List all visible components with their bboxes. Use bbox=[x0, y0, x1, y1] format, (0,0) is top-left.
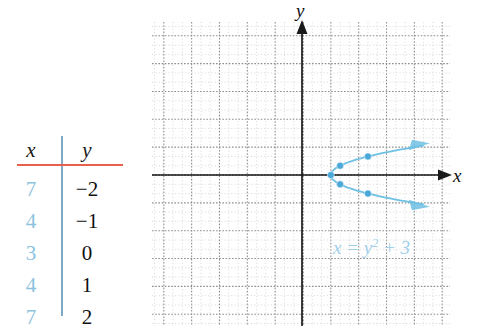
table-header-x: x bbox=[8, 138, 54, 163]
table-vertical-divider bbox=[61, 136, 63, 316]
equation-annotation: x = y2 + 3 bbox=[333, 236, 410, 259]
parabola-curve bbox=[150, 0, 483, 331]
table-row: 7 bbox=[8, 177, 54, 202]
table-header-y: y bbox=[64, 138, 110, 163]
table-row: −1 bbox=[64, 209, 110, 234]
figure-root: x y 7 −2 4 −1 3 0 4 1 7 2 y x x = y2 + 3 bbox=[0, 0, 483, 331]
table-row: 4 bbox=[8, 209, 54, 234]
table-header-rule bbox=[17, 164, 123, 166]
table-row: −2 bbox=[64, 177, 110, 202]
equation-lhs: x = y bbox=[333, 237, 372, 258]
equation-exponent: 2 bbox=[372, 236, 378, 250]
x-axis-label: x bbox=[453, 165, 461, 187]
coordinate-plane: y x x = y2 + 3 bbox=[150, 0, 483, 331]
table-row: 3 bbox=[8, 241, 54, 266]
table-row: 0 bbox=[64, 241, 110, 266]
table-row: 1 bbox=[64, 273, 110, 298]
table-row: 2 bbox=[64, 305, 110, 330]
value-table: x y 7 −2 4 −1 3 0 4 1 7 2 bbox=[0, 60, 140, 290]
y-axis-label: y bbox=[296, 0, 304, 22]
table-row: 7 bbox=[8, 305, 54, 330]
equation-rhs: + 3 bbox=[383, 237, 410, 258]
table-row: 4 bbox=[8, 273, 54, 298]
